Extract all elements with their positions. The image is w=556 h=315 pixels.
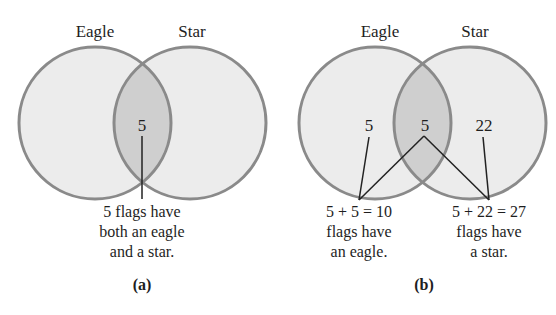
- panel-label-b: (b): [414, 276, 434, 294]
- caption-line-2: both an eagle: [99, 223, 184, 241]
- star-only-count: 22: [476, 116, 493, 135]
- star-caption-line-2: flags have: [456, 223, 521, 241]
- star-caption-line-1: 5 + 22 = 27: [452, 203, 526, 220]
- star-label: Star: [461, 22, 489, 41]
- venn-figure: Eagle Star 5 5 flags have both an eagle …: [0, 0, 556, 315]
- eagle-caption-line-1: 5 + 5 = 10: [326, 203, 392, 220]
- caption-line-1: 5 flags have: [103, 203, 180, 221]
- intersection-count: 5: [421, 116, 430, 135]
- eagle-caption-line-2: flags have: [326, 223, 391, 241]
- panel-a: Eagle Star 5 5 flags have both an eagle …: [19, 22, 266, 294]
- intersection-count: 5: [138, 116, 147, 135]
- panel-b: Eagle Star 5 5 22 5 + 5 = 10 flags have …: [299, 22, 546, 294]
- eagle-label: Eagle: [76, 22, 115, 41]
- eagle-only-count: 5: [365, 116, 374, 135]
- panel-label-a: (a): [133, 276, 152, 294]
- caption-line-3: and a star.: [110, 243, 174, 260]
- eagle-label: Eagle: [361, 22, 400, 41]
- eagle-caption-line-3: an eagle.: [331, 243, 388, 261]
- star-label: Star: [178, 22, 206, 41]
- star-caption-line-3: a star.: [470, 243, 507, 260]
